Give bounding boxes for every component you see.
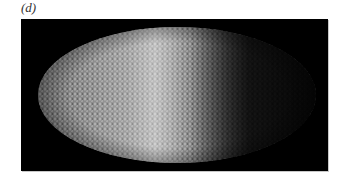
micrograph-frame — [21, 19, 328, 171]
panel-label: (d) — [21, 1, 36, 15]
embryo-edge-falloff — [38, 27, 316, 163]
embryo-image — [38, 27, 316, 163]
